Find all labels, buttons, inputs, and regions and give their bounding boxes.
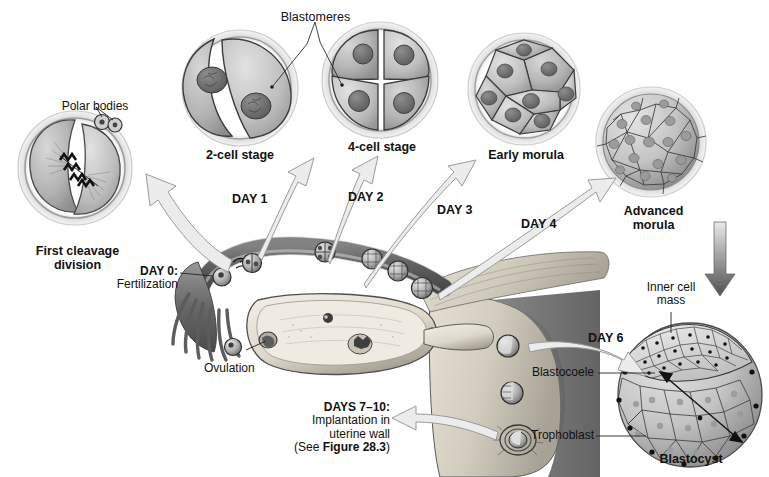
- days7to10-line1: Implantation in: [312, 413, 390, 427]
- arrow-day1-left: [146, 174, 232, 272]
- label-day1: DAY 1: [232, 192, 267, 206]
- stage-blastocyst-illustration: [616, 323, 762, 467]
- label-day2: DAY 2: [348, 190, 383, 204]
- label-day6: DAY 6: [588, 331, 623, 345]
- inner-cell-mass-line1: Inner cell: [647, 280, 696, 294]
- label-day0: DAY 0:Fertilization: [60, 265, 178, 292]
- label-polar-bodies: Polar bodies: [30, 100, 160, 113]
- label-early-morula: Early morula: [466, 148, 586, 162]
- label-trophoblast: Trophoblast: [506, 429, 594, 442]
- inner-cell-mass-line2: mass: [657, 293, 686, 307]
- days7to10-ref-prefix: (See: [294, 440, 323, 454]
- label-4-cell-stage: 4-cell stage: [322, 140, 442, 154]
- stage-early-morula-illustration: [468, 33, 580, 145]
- label-blastocyst: Blastocyst: [636, 452, 746, 466]
- label-inner-cell-mass: Inner cellmass: [616, 281, 726, 308]
- label-day3: DAY 3: [437, 203, 472, 217]
- days7to10-bold: DAYS 7–10:: [324, 400, 390, 414]
- days7to10-ref-suffix: ): [386, 440, 390, 454]
- label-2-cell-stage: 2-cell stage: [180, 148, 300, 162]
- day0-bold: DAY 0:: [140, 264, 178, 278]
- stage-first-cleavage-illustration: [18, 107, 132, 225]
- advanced-morula-line2: morula: [633, 218, 675, 232]
- first-cleavage-line1: First cleavage: [36, 244, 119, 258]
- stage-four-cell-illustration: [315, 22, 438, 138]
- days7to10-line2: uterine wall: [329, 427, 390, 441]
- advanced-morula-line1: Advanced: [624, 204, 684, 218]
- label-advanced-morula: Advancedmorula: [596, 204, 711, 232]
- label-day4: DAY 4: [521, 217, 556, 231]
- days7to10-ref-figure: Figure 28.3: [323, 440, 386, 454]
- label-ovulation: Ovulation: [204, 362, 255, 375]
- stage-two-cell-illustration: [182, 22, 315, 146]
- label-blastomeres: Blastomeres: [248, 10, 383, 24]
- figure-canvas: Polar bodies First cleavagedivision Blas…: [0, 0, 769, 477]
- day0-text: Fertilization: [117, 277, 178, 291]
- label-blastocoele: Blastocoele: [508, 366, 594, 379]
- label-days7to10: DAYS 7–10:Implantation inuterine wall(Se…: [200, 401, 390, 455]
